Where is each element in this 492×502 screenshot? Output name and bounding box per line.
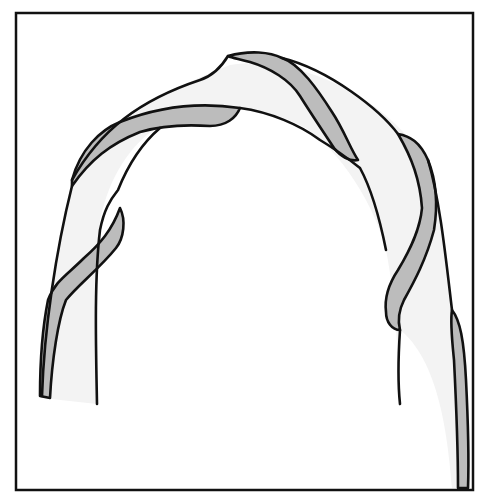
arch-illustration (0, 0, 492, 502)
